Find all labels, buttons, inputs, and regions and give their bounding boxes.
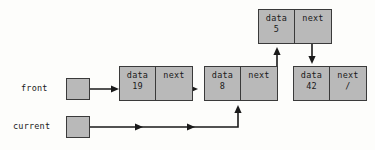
node-data-label: data — [212, 70, 233, 81]
node-data-cell: data 42 — [294, 67, 330, 100]
arrowhead-current-to-node8 — [234, 105, 241, 113]
list-node: data 19 next — [119, 66, 193, 101]
node-data-cell: data 8 — [205, 67, 241, 100]
list-node: data 5 next — [258, 9, 332, 44]
arrowhead-front-to-node19 — [111, 85, 119, 92]
arrowhead-node5-to-node42 — [308, 56, 315, 64]
node-next-cell: next — [241, 67, 277, 100]
current-pointer-label: current — [13, 121, 50, 132]
list-node: data 42 next / — [293, 66, 367, 101]
node-next-value: / — [345, 81, 350, 92]
node-next-label: next — [337, 70, 358, 81]
node-next-cell: next — [295, 10, 331, 43]
front-pointer-label: front — [21, 83, 48, 94]
node-next-cell: next / — [330, 67, 366, 100]
node-next-label: next — [302, 13, 323, 24]
arrowhead-current-mid-1 — [135, 123, 143, 130]
node-data-value: 5 — [274, 24, 279, 35]
node-data-value: 8 — [220, 81, 225, 92]
current-pointer-box — [66, 116, 90, 138]
arrowhead-node8-to-node5 — [273, 47, 280, 55]
node-data-label: data — [266, 13, 287, 24]
node-data-label: data — [301, 70, 322, 81]
front-pointer-box — [66, 78, 90, 100]
arrowhead-current-mid-2 — [187, 123, 195, 130]
node-data-value: 42 — [306, 81, 317, 92]
node-data-cell: data 19 — [120, 67, 156, 100]
node-data-cell: data 5 — [259, 10, 295, 43]
wire-current-to-node8 — [78, 112, 238, 127]
node-next-label: next — [163, 70, 184, 81]
node-data-value: 19 — [132, 81, 143, 92]
node-data-label: data — [127, 70, 148, 81]
node-next-label: next — [248, 70, 269, 81]
linked-list-diagram: front current data 19 next data 8 next d… — [0, 0, 375, 150]
node-next-cell: next — [156, 67, 192, 100]
list-node: data 8 next — [204, 66, 278, 101]
